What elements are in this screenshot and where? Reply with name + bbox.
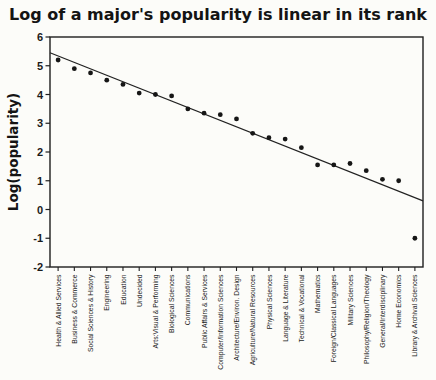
y-tick-label: 4 [37,89,44,101]
x-tick-label: Physical Sciences [266,274,274,329]
data-point [412,236,417,241]
x-tick-label: Social Sciences & History [87,274,95,352]
x-tick-label: Arts:Visual & Performing [152,274,160,348]
y-tick-label: 1 [37,175,43,187]
data-point [202,111,207,116]
data-point [88,71,93,76]
x-tick-label: Foreign/Classical Languages [330,274,338,362]
y-tick-label: 6 [37,31,43,43]
data-point [137,91,142,96]
data-point [364,168,369,173]
data-point [185,106,190,111]
data-point [234,117,239,122]
y-tick-label: -1 [33,232,43,244]
x-tick-label: Biological Sciences [168,274,176,333]
x-tick-label: Technical & Vocational [298,274,305,343]
y-tick-label: 0 [37,204,43,216]
data-point [315,163,320,168]
x-tick-label: Architecture/Environ. Design [233,274,241,360]
data-point [267,135,272,140]
data-point [250,131,255,136]
y-tick-label: 3 [37,117,43,129]
data-point [153,92,158,97]
x-tick-label: Engineering [103,274,111,310]
x-tick-label: Business & Commerce [71,274,78,343]
x-tick-label: Library & Archival Sciences [411,274,419,357]
x-tick-label: Communications [184,274,191,325]
x-tick-label: General/Interdisciplinary [379,274,387,348]
data-point [104,78,109,83]
data-point [299,145,304,150]
data-point [348,161,353,166]
data-point [218,112,223,117]
x-tick-label: Undecided [136,274,143,307]
data-point [169,94,174,99]
plot-area: 6543210-1-2Health & Allied ServicesBusin… [0,0,436,380]
x-tick-label: Public Affairs & Services [201,274,208,348]
x-tick-label: Philosophy/Religion/Theology [363,274,371,364]
x-tick-label: Home Economics [395,274,402,328]
chart-page: Log of a major's popularity is linear in… [0,0,436,380]
x-tick-label: Language & Literature [282,274,290,341]
trend-line [50,53,423,201]
data-point [396,178,401,183]
data-point [283,137,288,142]
x-tick-label: Education [120,274,127,304]
x-tick-label: Health & Allied Services [55,274,62,347]
data-point [72,66,77,71]
y-tick-label: 2 [37,146,43,158]
y-tick-label: 5 [37,60,43,72]
plot-frame [50,37,423,267]
x-tick-label: Military Sciences [347,274,355,326]
x-tick-label: Agriculture/Natural Resources [249,274,257,365]
x-tick-label: Computer/Information Sciences [217,274,225,370]
data-point [331,163,336,168]
data-point [121,82,126,87]
data-point [380,177,385,182]
data-point [56,58,61,63]
y-tick-label: -2 [33,261,43,273]
x-tick-label: Mathematics [314,274,321,313]
